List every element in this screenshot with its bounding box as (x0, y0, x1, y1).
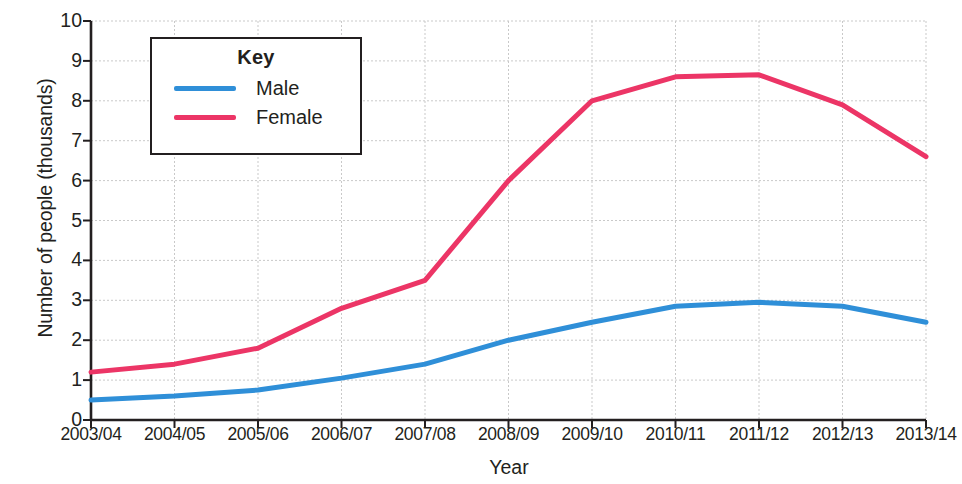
y-tick-label: 6 (44, 171, 82, 191)
y-tick-label: 1 (44, 370, 82, 390)
y-tick-label-text: 4 (44, 250, 82, 270)
y-tick-label-text: 7 (44, 131, 82, 151)
legend-label-male: Male (256, 78, 299, 98)
y-tick-label: 5 (44, 211, 82, 231)
legend-label-female: Female (256, 107, 323, 127)
y-tick-label: 3 (44, 290, 82, 310)
legend-swatch-female (174, 115, 236, 120)
y-tick-label-text: 10 (44, 11, 82, 31)
y-tick-label: 7 (44, 131, 82, 151)
y-tick-label-text: 2 (44, 330, 82, 350)
y-tick-label: 4 (44, 250, 82, 270)
y-tick-label: 8 (44, 91, 82, 111)
y-tick-label-text: 6 (44, 171, 82, 191)
legend-item-female: Female (152, 107, 360, 127)
y-tick-label-text: 1 (44, 370, 82, 390)
y-tick-label-text: 9 (44, 51, 82, 71)
legend: Key Male Female (150, 37, 362, 155)
y-tick-label-text: 5 (44, 211, 82, 231)
y-tick-label: 9 (44, 51, 82, 71)
y-tick-label-text: 8 (44, 91, 82, 111)
legend-title: Key (152, 46, 360, 69)
y-tick-label: 10 (44, 11, 82, 31)
y-tick-label: 2 (44, 330, 82, 350)
legend-item-male: Male (152, 78, 360, 98)
y-tick-label-text: 3 (44, 290, 82, 310)
x-tick-label: 2013/14 (871, 424, 962, 445)
legend-swatch-male (174, 86, 236, 91)
